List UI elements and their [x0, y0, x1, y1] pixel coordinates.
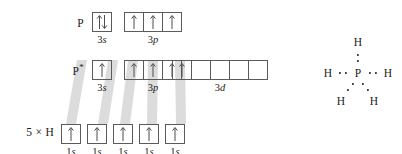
- orbital-box-3d-2[interactable]: [191, 60, 211, 80]
- orbital-sublabel-h1-1s: 1s: [66, 146, 75, 154]
- lewis-bond-dot-top-1: [357, 54, 359, 56]
- lewis-atom-h-bottom-left: H: [337, 95, 345, 107]
- orbital-box-3p-excited-1[interactable]: [124, 60, 144, 80]
- lewis-atom-h-bottom-right: H: [370, 95, 378, 107]
- lewis-atom-center-p: P: [355, 67, 361, 79]
- lewis-bond-dot-left-1: [339, 72, 341, 74]
- orbital-group-3d-excited: [172, 60, 268, 80]
- lewis-atom-h-right: H: [384, 67, 392, 79]
- lewis-bond-dot-br-1: [362, 83, 364, 85]
- orbital-box-3p-1[interactable]: [124, 12, 144, 32]
- orbital-box-h2-1s[interactable]: [87, 124, 107, 144]
- lewis-atom-h-top: H: [354, 36, 362, 48]
- lewis-bond-dot-right-2: [375, 72, 377, 74]
- label-star-excited: *: [79, 62, 84, 72]
- orbital-box-3s-1[interactable]: [92, 12, 112, 32]
- orbital-sublabel-3s-excited: 3s: [97, 82, 106, 93]
- row-label-excited-state: P*: [72, 62, 84, 77]
- orbital-group-3s-excited: [92, 60, 112, 80]
- orbital-sublabel-h5-1s: 1s: [170, 146, 179, 154]
- orbital-box-3d-4[interactable]: [229, 60, 249, 80]
- lewis-bond-dot-bl-1: [352, 83, 354, 85]
- orbital-sublabel-3p-ground: 3p: [148, 34, 159, 45]
- orbital-box-h3-1s[interactable]: [113, 124, 133, 144]
- orbital-box-3d-5[interactable]: [248, 60, 268, 80]
- orbital-box-3p-3[interactable]: [162, 12, 182, 32]
- orbital-sublabel-h3-1s: 1s: [118, 146, 127, 154]
- lewis-bond-dot-left-2: [345, 72, 347, 74]
- orbital-box-3s-excited-1[interactable]: [92, 60, 112, 80]
- orbital-group-h-1s: [61, 124, 185, 144]
- row-label-ground-state: P: [77, 14, 84, 29]
- orbital-sublabel-3s-ground: 3s: [97, 34, 106, 45]
- orbital-box-h1-1s[interactable]: [61, 124, 81, 144]
- lewis-bond-dot-br-2: [367, 89, 369, 91]
- lewis-bond-dot-right-1: [369, 72, 371, 74]
- orbital-box-3p-excited-2[interactable]: [143, 60, 163, 80]
- orbital-box-3d-1[interactable]: [172, 60, 192, 80]
- orbital-box-3p-2[interactable]: [143, 12, 163, 32]
- orbital-group-3p-ground: [124, 12, 182, 32]
- lewis-atom-h-left: H: [324, 67, 332, 79]
- orbital-group-3s-ground: [92, 12, 112, 32]
- lewis-bond-dot-top-2: [357, 60, 359, 62]
- orbital-sublabel-3d-excited: 3d: [215, 82, 226, 93]
- lewis-bond-dot-bl-2: [347, 89, 349, 91]
- orbital-sublabel-3p-excited: 3p: [148, 82, 159, 93]
- orbital-sublabel-h2-1s: 1s: [92, 146, 101, 154]
- row-label-hydrogens: 5 × H: [26, 126, 54, 138]
- orbital-box-h4-1s[interactable]: [139, 124, 159, 144]
- lewis-structure-ph5: P H H H H H: [318, 36, 398, 110]
- orbital-sublabel-h4-1s: 1s: [144, 146, 153, 154]
- orbital-box-3d-3[interactable]: [210, 60, 230, 80]
- orbital-box-h5-1s[interactable]: [165, 124, 185, 144]
- orbital-diagram-figure: P 3s: [0, 0, 402, 154]
